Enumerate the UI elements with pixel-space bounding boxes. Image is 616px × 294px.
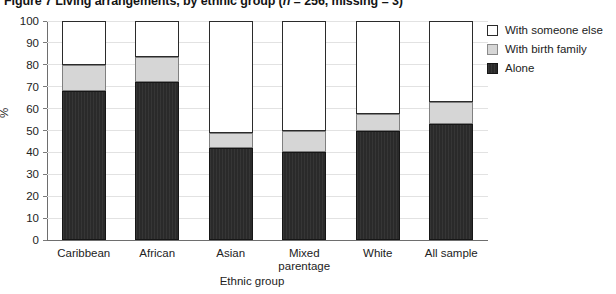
x-category-label-line: Caribbean: [47, 247, 121, 260]
y-tick-label: 20: [0, 190, 39, 202]
legend-item[interactable]: With someone else: [487, 21, 615, 39]
x-axis-title-text: Ethnic group: [220, 275, 285, 287]
plot-area: 1009080706050403020100: [47, 21, 488, 240]
y-tick-mark: [43, 240, 47, 241]
y-gridline: [47, 64, 488, 65]
legend-item[interactable]: With birth family: [487, 40, 615, 58]
bar-stack: [282, 21, 326, 240]
y-tick-mark: [43, 64, 47, 65]
y-gridline: [47, 108, 488, 109]
x-category-label-line: parentage: [268, 260, 342, 273]
legend-label: With someone else: [505, 24, 603, 36]
chart-legend: With someone elseWith birth familyAlone: [487, 21, 615, 78]
x-category-label: Asian: [194, 247, 268, 260]
y-tick-label: 70: [0, 81, 39, 93]
y-gridline: [47, 130, 488, 131]
y-tick-label: 60: [0, 103, 39, 115]
bar-stack: [135, 21, 179, 240]
legend-label: Alone: [505, 62, 534, 74]
x-category-label-line: Mixed: [268, 247, 342, 260]
bar-stack: [209, 21, 253, 240]
bar-segment-with-someone-else[interactable]: [429, 21, 473, 102]
y-tick-mark: [43, 42, 47, 43]
bar-group[interactable]: [356, 21, 400, 240]
y-tick-label: 90: [0, 37, 39, 49]
bar-segment-with-birth-family[interactable]: [429, 102, 473, 124]
y-tick-label: 30: [0, 168, 39, 180]
bar-stack: [429, 21, 473, 240]
bar-segment-with-birth-family[interactable]: [62, 65, 106, 91]
bar-segment-with-birth-family[interactable]: [209, 133, 253, 148]
x-category-label: Caribbean: [47, 247, 121, 260]
legend-label: With birth family: [505, 43, 587, 55]
x-axis-title: Ethnic group: [0, 275, 616, 287]
y-gridline: [47, 86, 488, 87]
x-category-label: All sample: [415, 247, 489, 260]
bar-segment-alone[interactable]: [429, 124, 473, 240]
chart-title: Figure 7 Living arrangements, by ethnic …: [4, 0, 403, 8]
x-category-label: African: [121, 247, 195, 260]
chart-title-suffix: = 256, missing = 3): [290, 0, 403, 8]
y-tick-mark: [43, 196, 47, 197]
y-tick-mark: [43, 130, 47, 131]
y-tick-mark: [43, 152, 47, 153]
x-category-label-line: African: [121, 247, 195, 260]
bar-group[interactable]: [209, 21, 253, 240]
bar-group[interactable]: [429, 21, 473, 240]
x-axis-line: [47, 240, 488, 241]
bar-group[interactable]: [62, 21, 106, 240]
y-tick-mark: [43, 174, 47, 175]
y-tick-label: 50: [0, 125, 39, 137]
bar-stack: [62, 21, 106, 240]
bar-segment-with-birth-family[interactable]: [135, 57, 179, 82]
y-gridline: [47, 152, 488, 153]
x-category-label: Mixedparentage: [268, 247, 342, 272]
bar-stack: [356, 21, 400, 240]
bar-segment-alone[interactable]: [282, 152, 326, 240]
y-gridline: [47, 21, 488, 22]
bar-segment-with-someone-else[interactable]: [135, 21, 179, 57]
bar-segment-with-birth-family[interactable]: [282, 131, 326, 153]
bar-segment-with-someone-else[interactable]: [209, 21, 253, 133]
y-tick-label: 0: [0, 234, 39, 246]
y-tick-label: 100: [0, 15, 39, 27]
bar-segment-alone[interactable]: [135, 82, 179, 240]
bar-segment-alone[interactable]: [62, 91, 106, 240]
y-gridline: [47, 218, 488, 219]
legend-swatch-birth-family: [487, 44, 498, 55]
x-category-label-line: All sample: [415, 247, 489, 260]
bar-segment-alone[interactable]: [209, 148, 253, 240]
bar-segment-with-birth-family[interactable]: [356, 114, 400, 130]
y-tick-label: 10: [0, 212, 39, 224]
legend-swatch-alone: [487, 63, 498, 74]
x-category-label-line: Asian: [194, 247, 268, 260]
bar-segment-alone[interactable]: [356, 131, 400, 241]
y-gridline: [47, 196, 488, 197]
x-category-label-line: White: [341, 247, 415, 260]
y-tick-mark: [43, 21, 47, 22]
chart-title-prefix: Figure 7 Living arrangements, by ethnic …: [4, 0, 283, 8]
y-tick-label: 40: [0, 146, 39, 158]
y-tick-mark: [43, 218, 47, 219]
y-tick-mark: [43, 86, 47, 87]
bar-segment-with-someone-else[interactable]: [282, 21, 326, 131]
bar-segment-with-someone-else[interactable]: [62, 21, 106, 65]
y-gridline: [47, 174, 488, 175]
bar-group[interactable]: [282, 21, 326, 240]
y-gridline: [47, 42, 488, 43]
bar-segment-with-someone-else[interactable]: [356, 21, 400, 114]
legend-item[interactable]: Alone: [487, 59, 615, 77]
x-category-label: White: [341, 247, 415, 260]
bar-group[interactable]: [135, 21, 179, 240]
legend-swatch-someone-else: [487, 25, 498, 36]
y-tick-label: 80: [0, 59, 39, 71]
y-tick-mark: [43, 108, 47, 109]
